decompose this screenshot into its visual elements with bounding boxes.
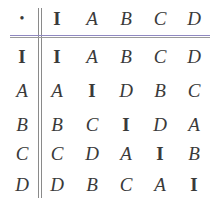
table-cell: I — [42, 44, 72, 70]
header-cell: I — [42, 6, 72, 32]
table-cell: B — [111, 44, 141, 70]
operator-symbol: • — [7, 6, 37, 32]
table-cell: A — [42, 78, 72, 104]
row-label: D — [7, 172, 37, 198]
table-cell: D — [111, 78, 141, 104]
table-cell: B — [77, 172, 107, 198]
table-cell: C — [42, 141, 72, 167]
row-label: B — [7, 112, 37, 138]
horizontal-divider — [10, 35, 210, 36]
row-label: C — [7, 141, 37, 167]
table-cell: D — [145, 112, 175, 138]
table-cell: I — [179, 172, 209, 198]
table-cell: B — [145, 78, 175, 104]
table-cell: A — [77, 44, 107, 70]
header-cell: D — [179, 6, 209, 32]
table-cell: A — [145, 172, 175, 198]
table-cell: I — [111, 112, 141, 138]
table-cell: B — [179, 141, 209, 167]
header-cell: B — [111, 6, 141, 32]
row-label: I — [7, 44, 37, 70]
table-cell: C — [179, 78, 209, 104]
table-cell: A — [111, 141, 141, 167]
header-cell: C — [145, 6, 175, 32]
header-cell: A — [77, 6, 107, 32]
table-cell: D — [179, 44, 209, 70]
table-cell: C — [77, 112, 107, 138]
table-cell: A — [179, 112, 209, 138]
table-cell: I — [145, 141, 175, 167]
table-cell: C — [111, 172, 141, 198]
table-cell: I — [77, 78, 107, 104]
row-label: A — [7, 78, 37, 104]
table-cell: B — [42, 112, 72, 138]
horizontal-divider — [10, 37, 210, 38]
table-cell: C — [145, 44, 175, 70]
table-cell: D — [42, 172, 72, 198]
table-cell: D — [77, 141, 107, 167]
